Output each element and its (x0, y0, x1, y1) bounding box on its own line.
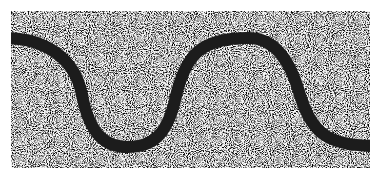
figure (0, 0, 381, 178)
noise-texture (11, 11, 370, 168)
sine-wave-figure (0, 0, 381, 178)
